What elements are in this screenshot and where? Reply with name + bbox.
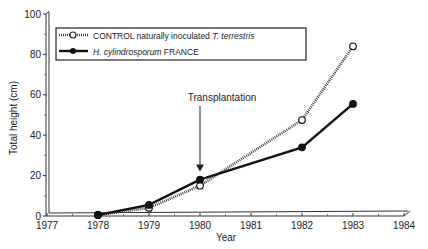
data-point bbox=[350, 43, 357, 50]
y-axis-label: Total height (cm) bbox=[8, 81, 19, 155]
x-axis-label: Year bbox=[216, 232, 237, 243]
y-tick-label: 60 bbox=[30, 89, 42, 100]
y-tick-label: 100 bbox=[24, 9, 41, 20]
data-point bbox=[350, 101, 357, 108]
data-point bbox=[95, 212, 102, 219]
open-circle-icon bbox=[70, 32, 76, 38]
y-tick-label: 20 bbox=[30, 170, 42, 181]
annotation-label: Transplantation bbox=[188, 92, 257, 103]
series-1 bbox=[95, 101, 357, 219]
x-tick-label: 1980 bbox=[189, 220, 212, 231]
y-tick-label: 80 bbox=[30, 49, 42, 60]
x-tick-label: 1979 bbox=[138, 220, 161, 231]
data-point bbox=[299, 144, 306, 151]
x-tick-label: 1977 bbox=[36, 220, 59, 231]
line-chart: 020406080100 197719781979198019811982198… bbox=[0, 0, 428, 249]
legend: CONTROL naturally inoculated T. terrestr… bbox=[56, 28, 306, 60]
data-point bbox=[146, 202, 153, 209]
x-axis: 19771978197919801981198219831984 bbox=[36, 211, 416, 231]
series-0 bbox=[95, 43, 357, 218]
data-point bbox=[299, 117, 306, 124]
arrow-down-icon bbox=[196, 165, 204, 172]
x-tick-label: 1983 bbox=[342, 220, 365, 231]
svg-text:H. cylindrosporum FRANCE: H. cylindrosporum FRANCE bbox=[93, 47, 199, 57]
filled-circle-icon bbox=[70, 48, 76, 54]
y-tick-label: 40 bbox=[30, 130, 42, 141]
data-point bbox=[197, 176, 204, 183]
x-tick-label: 1978 bbox=[87, 220, 110, 231]
legend-label-hcylindrosporum: H. cylindrosporum bbox=[93, 47, 162, 57]
x-tick-label: 1984 bbox=[393, 220, 416, 231]
transplantation-annotation: Transplantation bbox=[188, 92, 257, 172]
x-tick-label: 1981 bbox=[240, 220, 263, 231]
x-tick-label: 1982 bbox=[291, 220, 314, 231]
legend-label-control: CONTROL naturally inoculated bbox=[93, 31, 212, 41]
series-layer bbox=[95, 43, 357, 218]
svg-text:CONTROL naturally inoculated T: CONTROL naturally inoculated T. terrestr… bbox=[93, 31, 255, 41]
y-axis: 020406080100 bbox=[24, 9, 49, 222]
